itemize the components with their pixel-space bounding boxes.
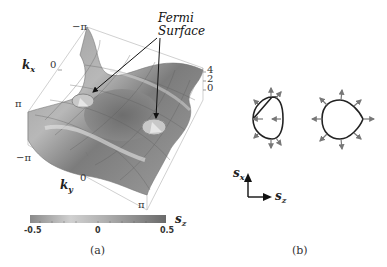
right-spin-contour xyxy=(312,90,374,149)
panel-a-caption: (a) xyxy=(90,244,105,257)
kx-tick-neg-pi: −π xyxy=(72,21,87,32)
colorbar-tick-max: 0.5 xyxy=(160,226,174,235)
kx-axis-label: kx xyxy=(22,58,35,74)
sz-label-sub: z xyxy=(282,195,287,205)
panel-b-caption: (b) xyxy=(292,244,308,257)
fermi-surface-label: Fermi Surface xyxy=(158,12,205,38)
sx-label-sub: x xyxy=(240,172,245,182)
ky-tick-neg-pi: −π xyxy=(16,152,31,163)
colorbar-tick-min: -0.5 xyxy=(24,226,42,235)
kx-tick-zero: 0 xyxy=(50,59,56,70)
kx-label-sub: x xyxy=(30,64,35,74)
colorbar-label-sub: z xyxy=(182,218,187,228)
sx-axis-label: sx xyxy=(233,166,245,182)
spin-axes xyxy=(244,173,272,201)
fermi-label-line2: Surface xyxy=(158,25,205,38)
colorbar-label-main: s xyxy=(175,212,182,226)
ky-label-sub: y xyxy=(68,184,73,194)
kx-tick-pi: π xyxy=(15,98,22,109)
ky-tick-pi: π xyxy=(138,199,145,210)
energy-tick-0: 0 xyxy=(207,83,213,92)
ky-axis-label: ky xyxy=(60,178,73,194)
colorbar-label: sz xyxy=(175,212,186,228)
fermi-pocket-right xyxy=(142,119,166,135)
left-spin-contour xyxy=(253,88,283,148)
sz-axis-label: sz xyxy=(275,189,286,205)
sx-label-main: s xyxy=(233,166,240,180)
figure-graphics xyxy=(0,0,387,267)
ky-tick-zero: 0 xyxy=(80,172,86,183)
band-surface xyxy=(28,27,203,195)
fermi-pocket-left xyxy=(72,94,94,108)
energy-ticks: 4 2 0 xyxy=(207,65,213,92)
sz-label-main: s xyxy=(275,189,282,203)
colorbar xyxy=(30,215,166,223)
colorbar-tick-mid: 0 xyxy=(95,226,101,235)
